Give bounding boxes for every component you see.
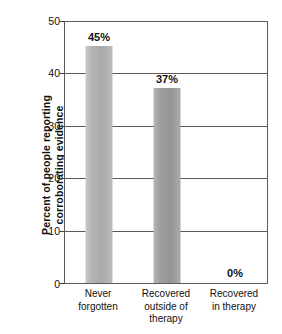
bar-slot-recovered-outside-therapy: 37%: [133, 22, 201, 283]
y-axis-tick-labels: 50 40 30 20 10 0: [40, 0, 60, 334]
x-tick-label-recovered-in-therapy: Recovered in therapy: [200, 288, 268, 313]
bar-slot-never-forgotten: 45%: [65, 22, 133, 283]
x-tick-label-never-forgotten: Never forgotten: [64, 288, 132, 313]
x-tick-label-recovered-outside-therapy: Recovered outside of therapy: [132, 288, 200, 326]
y-tick-label-10: 10: [38, 226, 60, 236]
y-tick-label-40: 40: [38, 68, 60, 78]
bar-slot-recovered-in-therapy: 0%: [201, 22, 269, 283]
y-tick-label-0: 0: [38, 279, 60, 289]
bar-value-recovered-outside-therapy: 37%: [156, 73, 178, 85]
y-tick-label-30: 30: [38, 121, 60, 131]
bar-recovered-outside-therapy[interactable]: 37%: [154, 88, 181, 283]
x-axis-category-labels: Never forgotten Recovered outside of the…: [64, 288, 268, 334]
bar-value-never-forgotten: 45%: [88, 31, 110, 43]
bars-layer: 45% 37% 0%: [65, 22, 267, 283]
bar-chart: Percent of people reporting corroboratin…: [0, 0, 282, 334]
y-tick-label-20: 20: [38, 173, 60, 183]
bar-value-recovered-in-therapy: 0%: [227, 267, 243, 279]
bar-never-forgotten[interactable]: 45%: [86, 46, 113, 283]
plot-area: 45% 37% 0%: [64, 21, 268, 284]
y-tick-label-50: 50: [38, 16, 60, 26]
